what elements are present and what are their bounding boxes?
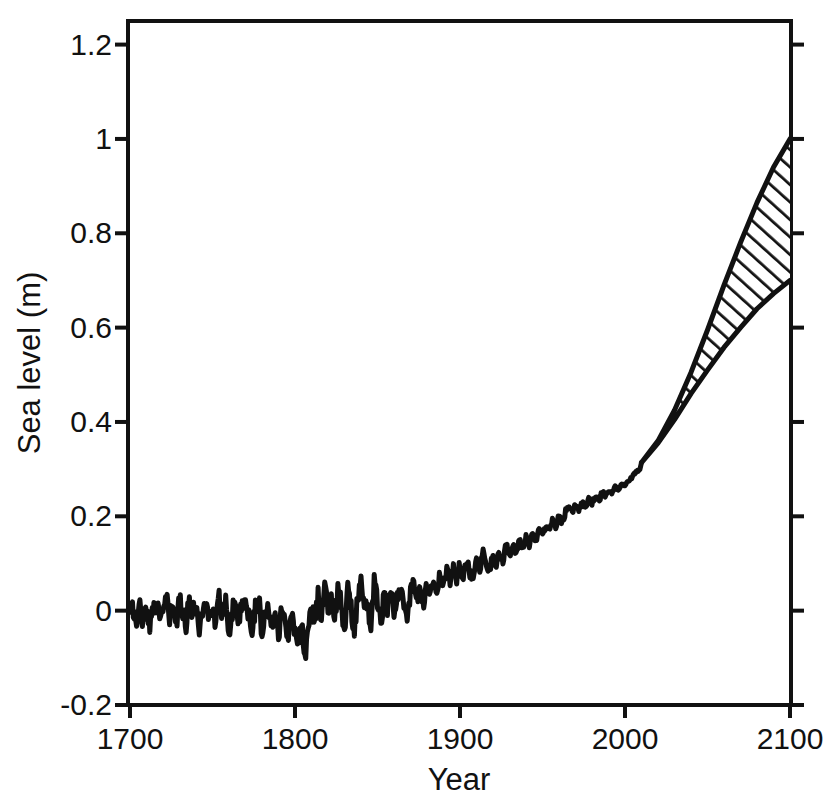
x-tick-label: 2100 (757, 722, 824, 755)
y-axis-title: Sea level (m) (12, 272, 47, 455)
y-tick-label: -0.2 (60, 688, 112, 721)
y-tick-label: 0.6 (70, 311, 112, 344)
x-tick-label: 1800 (262, 722, 329, 755)
y-tick-label: 1.2 (70, 28, 112, 61)
y-tick-label: 0.4 (70, 405, 112, 438)
x-tick-label: 2000 (592, 722, 659, 755)
y-tick-label: 1 (95, 122, 112, 155)
x-tick-label: 1900 (427, 722, 494, 755)
sea-level-chart: 17001800190020002100 1.210.80.60.40.20-0… (0, 0, 840, 805)
y-tick-label: 0.8 (70, 216, 112, 249)
y-tick-label: 0.2 (70, 499, 112, 532)
x-axis-title: Year (428, 762, 491, 797)
x-tick-label: 1700 (97, 722, 164, 755)
y-tick-label: 0 (95, 594, 112, 627)
figure-root: 17001800190020002100 1.210.80.60.40.20-0… (0, 0, 840, 805)
